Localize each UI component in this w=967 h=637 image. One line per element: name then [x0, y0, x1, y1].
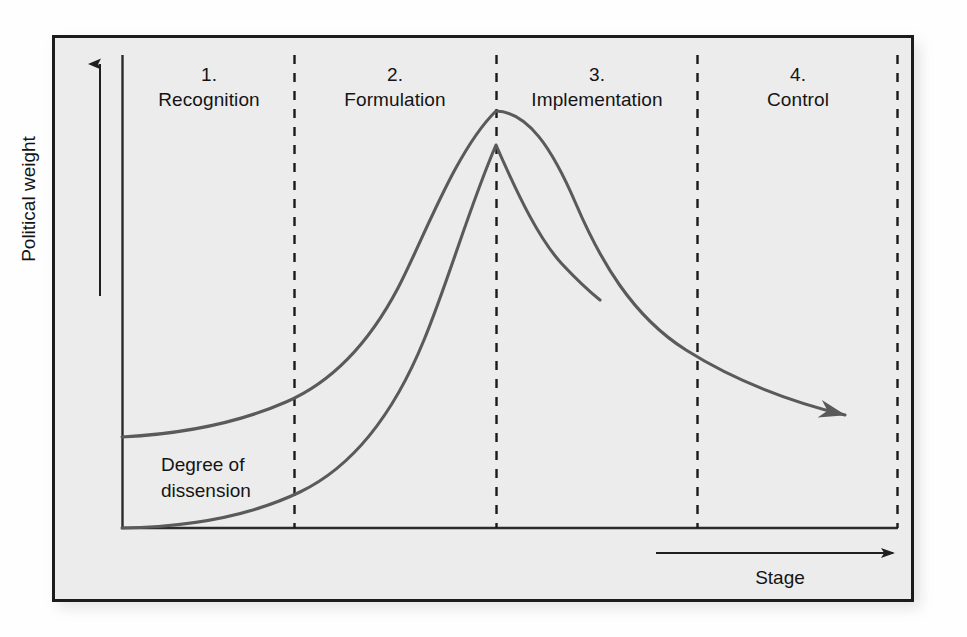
annotation-degree-of-dissension: Degree of dissension: [161, 452, 251, 504]
stage-number-1: 1.: [128, 62, 290, 87]
stage-name-1: Recognition: [128, 87, 290, 112]
stage-number-3: 3.: [502, 62, 692, 87]
stage-label-formulation: 2. Formulation: [300, 62, 490, 112]
stage-name-4: Control: [703, 87, 893, 112]
stage-number-4: 4.: [703, 62, 893, 87]
stage-name-2: Formulation: [300, 87, 490, 112]
figure-root: Political weight Stage 1. Recognition 2.…: [0, 0, 967, 637]
stage-label-recognition: 1. Recognition: [128, 62, 290, 112]
stage-label-control: 4. Control: [703, 62, 893, 112]
stage-number-2: 2.: [300, 62, 490, 87]
stage-name-3: Implementation: [502, 87, 692, 112]
annotation-line-2: dissension: [161, 478, 251, 504]
annotation-line-1: Degree of: [161, 452, 251, 478]
curve-political-weight: [122, 111, 845, 437]
stage-label-implementation: 3. Implementation: [502, 62, 692, 112]
y-axis-title: Political weight: [18, 104, 40, 294]
x-axis-title: Stage: [700, 567, 860, 589]
